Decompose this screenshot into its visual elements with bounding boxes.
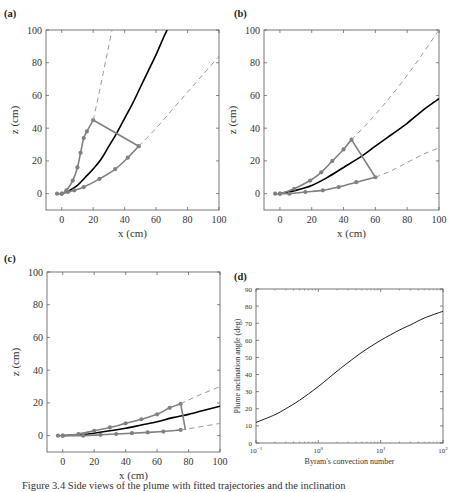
x-tick-label: 60 — [151, 214, 161, 225]
data-marker — [114, 432, 118, 436]
y-tick-label: 60 — [33, 332, 43, 343]
series-cross-section — [352, 140, 376, 178]
data-marker — [354, 180, 358, 184]
y-tick-label: 0 — [255, 188, 260, 199]
series-lower-edge-extrapolation — [375, 148, 439, 177]
series-centerline — [280, 99, 439, 194]
panel-label: (b) — [234, 8, 247, 20]
x-tick-label: 40 — [120, 214, 130, 225]
x-tick-label: 80 — [402, 214, 412, 225]
series-lower-edge-fit — [62, 146, 139, 193]
y-tick-label: 80 — [245, 303, 253, 311]
data-marker — [319, 170, 323, 174]
data-marker — [82, 185, 86, 189]
x-tick-label: 60 — [370, 214, 380, 225]
x-tick-label: 0 — [60, 456, 65, 467]
data-marker — [75, 165, 79, 169]
data-marker — [108, 425, 112, 429]
y-tick-label: 30 — [245, 388, 253, 396]
y-tick-label: 40 — [33, 365, 43, 376]
data-marker — [79, 151, 83, 155]
x-tick-label: 60 — [152, 456, 162, 467]
x-tick-label: 10−1 — [250, 446, 263, 455]
y-tick-label: 60 — [245, 337, 253, 345]
x-tick-label: 40 — [121, 456, 131, 467]
y-tick-label: 20 — [33, 397, 43, 408]
data-marker — [55, 192, 59, 196]
y-tick-label: 100 — [245, 25, 260, 36]
y-axis-label: Plume inclination angle (deg) — [233, 318, 242, 413]
chart-panel-d: (d)010203040506070809010−1100101102Byram… — [233, 271, 448, 466]
axes-frame — [47, 272, 220, 452]
data-marker — [146, 430, 150, 434]
series-upper-edge-extrapolation — [93, 30, 112, 120]
data-marker — [82, 136, 86, 140]
x-axis-label: x (cm) — [118, 227, 147, 240]
data-marker — [97, 177, 101, 181]
data-marker — [155, 412, 159, 416]
series-cross-section — [93, 120, 139, 146]
x-tick-label: 20 — [307, 214, 317, 225]
x-tick-label: 100 — [213, 456, 228, 467]
panel-label: (a) — [4, 8, 17, 20]
data-marker — [66, 190, 70, 194]
y-tick-label: 40 — [245, 371, 253, 379]
y-tick-label: 0 — [37, 188, 42, 199]
x-tick-label: 80 — [183, 214, 193, 225]
y-axis-label: z (cm) — [8, 105, 21, 134]
data-marker — [321, 188, 325, 192]
y-tick-label: 80 — [250, 57, 260, 68]
y-axis-label: z (cm) — [9, 347, 22, 376]
y-tick-label: 60 — [32, 90, 42, 101]
y-tick-label: 100 — [27, 25, 42, 36]
y-tick-label: 0 — [38, 430, 43, 441]
chart-panel-a: (a)020406080100020406080100x (cm)z (cm) — [4, 8, 227, 240]
x-tick-label: 20 — [88, 214, 98, 225]
y-tick-label: 70 — [245, 320, 253, 328]
data-marker — [341, 147, 345, 151]
series-upper-edge-extrapolation — [352, 30, 440, 140]
panel-label: (d) — [234, 271, 247, 283]
series-lower-edge-extrapolation — [139, 56, 219, 146]
figure-caption: Figure 3.4 Side views of the plume with … — [22, 480, 462, 491]
data-marker — [61, 434, 65, 438]
y-tick-label: 100 — [28, 267, 43, 278]
data-marker — [113, 167, 117, 171]
data-marker — [60, 192, 64, 196]
axes-frame — [256, 289, 443, 443]
y-tick-label: 80 — [33, 299, 43, 310]
series-inclination — [256, 311, 443, 422]
data-marker — [273, 192, 277, 196]
x-tick-label: 0 — [277, 214, 282, 225]
y-tick-label: 80 — [32, 57, 42, 68]
y-tick-label: 20 — [32, 155, 42, 166]
data-marker — [124, 421, 128, 425]
x-tick-label: 100 — [212, 214, 227, 225]
y-tick-label: 90 — [245, 286, 253, 294]
y-tick-label: 60 — [250, 90, 260, 101]
data-marker — [330, 159, 334, 163]
data-marker — [92, 429, 96, 433]
series-lower-edge-extrapolation — [181, 423, 220, 430]
chart-panel-b: (b)020406080100020406080100x (cm)z (cm) — [226, 8, 447, 240]
data-marker — [168, 406, 172, 410]
x-axis-label: x (cm) — [337, 227, 366, 240]
y-tick-label: 10 — [245, 422, 253, 430]
x-tick-label: 20 — [89, 456, 99, 467]
series-upper-edge-extrapolation — [181, 387, 220, 404]
data-marker — [287, 192, 291, 196]
data-marker — [292, 187, 296, 191]
x-tick-label: 102 — [438, 446, 448, 455]
x-tick-label: 100 — [314, 446, 324, 455]
data-marker — [81, 434, 85, 438]
x-tick-label: 80 — [184, 456, 194, 467]
y-axis-label: z (cm) — [226, 105, 239, 134]
data-marker — [71, 178, 75, 182]
y-tick-label: 50 — [245, 354, 253, 362]
y-tick-label: 20 — [250, 155, 260, 166]
y-tick-label: 40 — [32, 123, 42, 134]
data-marker — [130, 431, 134, 435]
data-marker — [337, 185, 341, 189]
data-marker — [303, 190, 307, 194]
y-tick-label: 40 — [250, 123, 260, 134]
